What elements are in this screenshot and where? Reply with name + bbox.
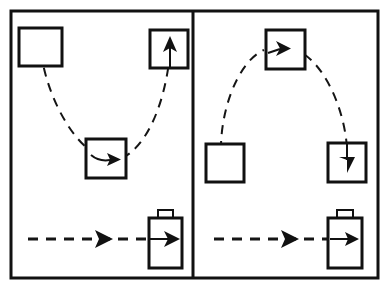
left-panel [19, 28, 188, 268]
box-middle [86, 139, 126, 178]
bottom-mid-arrowhead-icon [95, 230, 113, 248]
diagram-figure [0, 0, 389, 288]
bag-body-icon [149, 218, 182, 268]
right-panel [206, 30, 366, 268]
box-top-left [19, 28, 62, 66]
bag-body-icon [328, 218, 362, 268]
box-lower-left [206, 144, 244, 182]
bottom-mid-arrowhead-icon [281, 230, 299, 248]
diagram-canvas [0, 0, 389, 288]
